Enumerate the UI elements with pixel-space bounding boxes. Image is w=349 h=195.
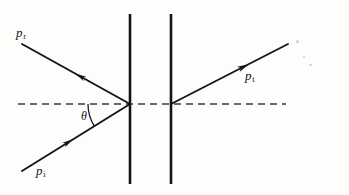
diagram-canvas <box>0 0 349 195</box>
label-transmitted-subscript: t <box>252 74 255 84</box>
label-incident-momentum: pi <box>36 164 46 179</box>
scattering-diagram: pr pi pt θ <box>0 0 349 195</box>
incident-ray-line <box>22 104 130 171</box>
label-transmitted-momentum: pt <box>245 69 255 84</box>
label-reflected-symbol: p <box>16 25 23 40</box>
transmitted-ray-line <box>171 44 288 104</box>
label-angle-theta: θ <box>81 110 87 122</box>
scan-speck <box>309 64 312 66</box>
label-reflected-subscript: r <box>23 31 27 41</box>
label-transmitted-symbol: p <box>245 68 252 83</box>
label-incident-symbol: p <box>36 163 43 178</box>
label-incident-subscript: i <box>43 169 46 179</box>
reflected-ray-arrowhead <box>74 71 86 81</box>
scan-speck <box>296 40 299 43</box>
label-reflected-momentum: pr <box>16 26 26 41</box>
scan-speck <box>303 56 305 58</box>
angle-arc <box>88 104 94 126</box>
